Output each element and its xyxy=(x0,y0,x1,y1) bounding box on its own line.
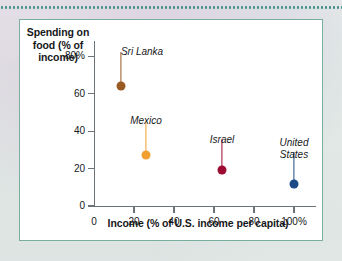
y-tick-80% xyxy=(88,56,94,57)
x-tick-label-0: 0 xyxy=(72,216,116,227)
y-tick-20 xyxy=(88,168,94,169)
page-top-dotted-rule xyxy=(0,6,342,9)
data-point-united-states[interactable] xyxy=(290,180,299,189)
y-axis-line xyxy=(94,41,95,207)
y-tick-60 xyxy=(88,93,94,94)
x-tick-label-40: 40 xyxy=(152,216,196,227)
y-tick-label-0: 0 xyxy=(37,200,85,211)
x-tick-60 xyxy=(213,207,214,213)
y-tick-label-20: 20 xyxy=(37,163,85,174)
x-tick-label-60: 60 xyxy=(192,216,236,227)
data-point-label-mexico: Mexico xyxy=(130,115,162,127)
y-tick-40 xyxy=(88,131,94,132)
y-axis-title-line-0: Spending on xyxy=(22,26,94,39)
data-point-mexico[interactable] xyxy=(142,150,151,159)
x-tick-label-80: 80 xyxy=(232,216,276,227)
figure-frame: Spending onfood (% ofincome) Income (% o… xyxy=(19,19,323,241)
data-point-label-united-states: United States xyxy=(280,137,309,160)
y-tick-label-40: 40 xyxy=(37,125,85,136)
y-tick-label-60: 60 xyxy=(37,88,85,99)
scatter-plot: Spending onfood (% ofincome) Income (% o… xyxy=(20,20,324,242)
data-point-sri-lanka[interactable] xyxy=(117,82,126,91)
data-point-label-sri-lanka: Sri Lanka xyxy=(121,46,163,58)
y-tick-0 xyxy=(88,205,94,206)
data-point-israel[interactable] xyxy=(218,166,227,175)
x-axis-line xyxy=(94,206,316,207)
y-axis-title-line-1: food (% of xyxy=(22,39,94,52)
x-tick-100% xyxy=(293,207,294,213)
x-tick-40 xyxy=(173,207,174,213)
data-point-label-israel: Israel xyxy=(210,134,234,146)
y-tick-label-80%: 80% xyxy=(37,50,85,61)
x-tick-label-100%: 100% xyxy=(272,216,316,227)
x-tick-20 xyxy=(133,207,134,213)
x-tick-80 xyxy=(253,207,254,213)
x-tick-label-20: 20 xyxy=(112,216,156,227)
